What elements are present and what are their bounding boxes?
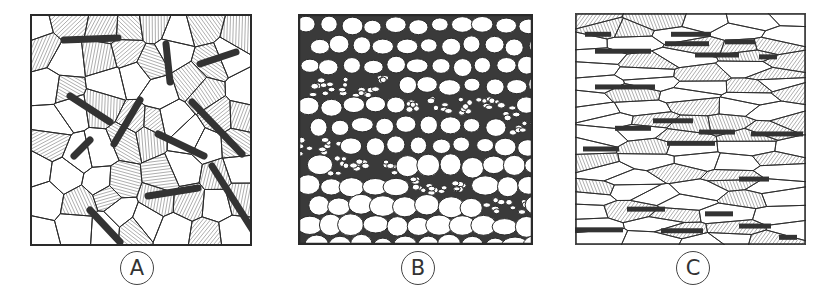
- grain-boundary: [30, 68, 60, 106]
- hatch-line: [673, 13, 767, 129]
- hatch-line: [735, 13, 806, 112]
- hatch-line: [85, 196, 244, 216]
- hatch-line: [681, 107, 775, 236]
- hatch-line: [104, 29, 111, 189]
- grain: [301, 59, 319, 72]
- grain: [485, 36, 504, 53]
- grain: [509, 106, 516, 110]
- hatch-line: [30, 14, 131, 87]
- hatch-line: [751, 108, 806, 237]
- hatch-line: [648, 13, 706, 88]
- grain: [343, 83, 348, 88]
- hatch-line: [173, 21, 252, 154]
- grain: [356, 159, 363, 164]
- hatch-line: [732, 94, 806, 223]
- hatch-line: [30, 14, 53, 115]
- hatch-line: [139, 65, 151, 225]
- hatch-line: [661, 13, 755, 120]
- grain: [310, 118, 327, 136]
- hatch-line: [30, 150, 63, 246]
- hatch-line: [575, 13, 642, 82]
- grain: [486, 119, 506, 137]
- hatch-line: [83, 21, 234, 73]
- hatch-line: [30, 14, 100, 55]
- hatch-line: [61, 14, 135, 98]
- hatch-line: [30, 148, 69, 246]
- hatch-line: [187, 196, 252, 246]
- hatch-line: [633, 73, 727, 202]
- grain: [362, 163, 370, 169]
- hatch-line: [710, 78, 804, 207]
- hatch-line: [141, 43, 230, 176]
- hatch-line: [697, 13, 791, 115]
- hatch-line: [706, 50, 764, 199]
- grain-boundary: [55, 214, 93, 246]
- needle-inclusion: [148, 188, 198, 196]
- hatch-line: [30, 14, 95, 77]
- hatch-line: [775, 101, 806, 230]
- hatch-line: [30, 14, 58, 126]
- hatch-line: [575, 13, 607, 124]
- hatch-line: [651, 86, 745, 215]
- hatch-line: [575, 117, 637, 245]
- hatch-line: [30, 100, 117, 175]
- hatch-line: [667, 13, 725, 80]
- hatch-line: [182, 14, 183, 109]
- hatch-line: [703, 73, 797, 202]
- hatch-line: [772, 13, 806, 110]
- stringer-inclusion: [699, 130, 735, 135]
- grain: [497, 58, 516, 74]
- grain: [489, 98, 495, 104]
- hatch-line: [601, 13, 695, 125]
- grain: [486, 79, 504, 95]
- grain: [440, 117, 461, 134]
- hatch-line: [152, 14, 153, 109]
- grain: [343, 97, 365, 113]
- hatch-line: [691, 13, 785, 111]
- hatch-line: [136, 21, 237, 145]
- hatch-line: [30, 34, 149, 113]
- lamellar-grain: [680, 13, 806, 174]
- hatch-line: [589, 13, 647, 109]
- grain: [383, 178, 409, 195]
- grain: [387, 163, 395, 168]
- hatch-line: [213, 14, 218, 114]
- grain: [328, 87, 335, 92]
- hatch-line: [47, 26, 54, 186]
- grain: [471, 16, 493, 32]
- grain: [417, 77, 438, 93]
- grain: [340, 138, 361, 154]
- hatch-line: [213, 42, 252, 192]
- hatch-line: [64, 14, 138, 100]
- grain-boundary: [618, 154, 674, 171]
- stringer-inclusion: [661, 228, 703, 233]
- grain-boundary: [223, 155, 252, 183]
- hatch-line: [158, 14, 159, 109]
- hatch-line: [188, 115, 219, 246]
- hatch-line: [30, 177, 184, 221]
- hatch-line: [125, 67, 137, 227]
- hatch-line: [693, 37, 751, 186]
- grain: [399, 76, 417, 93]
- grain: [358, 91, 364, 96]
- hatch-line: [174, 14, 179, 113]
- hatch-line: [776, 126, 806, 245]
- panel-a-label: A: [120, 251, 154, 285]
- hatch-line: [62, 27, 69, 187]
- hatch-line: [40, 130, 106, 246]
- hatch-line: [45, 14, 160, 111]
- hatch-line: [734, 44, 806, 173]
- hatch-line: [46, 14, 162, 120]
- hatch-line: [63, 194, 189, 246]
- hatch-line: [784, 90, 806, 219]
- grain-boundary: [575, 62, 620, 78]
- grain: [366, 138, 384, 156]
- hatch-line: [773, 124, 806, 245]
- hatch-line: [590, 13, 648, 95]
- hatch-line: [575, 13, 633, 116]
- hatch-line: [193, 14, 252, 141]
- hatch-line: [124, 118, 151, 246]
- hatch-line: [773, 52, 806, 181]
- hatch-line: [671, 13, 765, 127]
- hatch-line: [716, 13, 806, 129]
